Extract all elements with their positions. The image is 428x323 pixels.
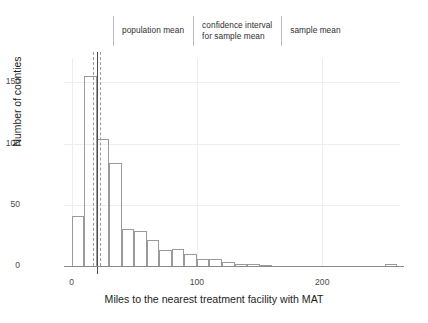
legend-label-confidence-interval: confidence interval for sample mean — [194, 16, 281, 41]
histogram-bar — [172, 249, 185, 266]
y-axis-title: Number of counties — [12, 37, 23, 167]
x-axis-tick-label: 100 — [177, 277, 217, 287]
legend-label-population-mean: population mean — [114, 16, 193, 36]
histogram-bar — [197, 259, 210, 266]
x-axis-tick-label: 200 — [302, 277, 342, 287]
histogram-bar — [209, 259, 222, 266]
histogram-figure: population mean confidence interval for … — [0, 0, 428, 323]
histogram-bar — [184, 254, 197, 266]
sample-mean-line — [97, 52, 98, 274]
confidence-interval-lower-line — [93, 52, 95, 266]
histogram-bar — [122, 229, 135, 266]
legend-entry-population-mean: population mean — [113, 16, 193, 48]
histogram-bar — [147, 240, 160, 266]
legend-entry-confidence-interval: confidence interval for sample mean — [193, 16, 281, 48]
histogram-bar — [97, 139, 110, 266]
chart-legend: population mean confidence interval for … — [113, 16, 350, 48]
histogram-bar — [72, 216, 85, 266]
legend-label-sample-mean: sample mean — [282, 16, 349, 36]
x-axis-line — [64, 266, 404, 267]
x-axis-tick-label: 0 — [52, 277, 92, 287]
plot-area — [64, 58, 400, 266]
gridline-horizontal — [64, 144, 400, 145]
histogram-bar — [159, 250, 172, 266]
histogram-bar — [134, 231, 147, 266]
histogram-bar — [109, 163, 122, 266]
gridline-vertical — [322, 58, 323, 266]
gridline-vertical — [197, 58, 198, 266]
legend-entry-sample-mean: sample mean — [281, 16, 349, 48]
gridline-horizontal — [64, 82, 400, 83]
y-axis-tick-label: 50 — [0, 199, 20, 209]
confidence-interval-upper-line — [100, 52, 102, 266]
x-axis-title: Miles to the nearest treatment facility … — [0, 293, 428, 305]
y-axis-tick-label: 0 — [0, 260, 20, 270]
